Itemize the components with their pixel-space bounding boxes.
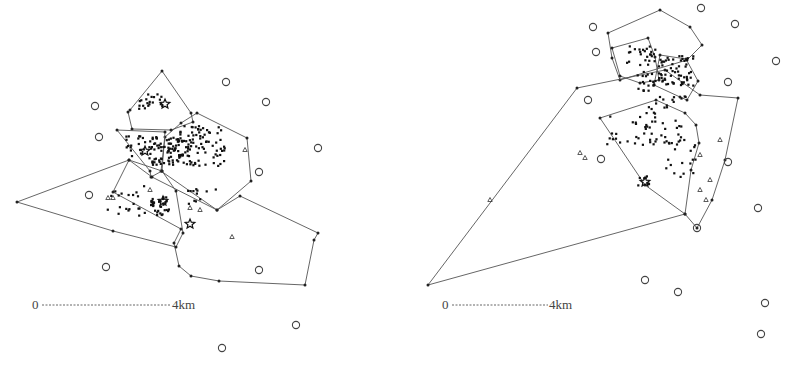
earthquake-point — [138, 215, 140, 217]
earthquake-point — [220, 148, 222, 150]
earthquake-point — [692, 58, 694, 60]
polygon-vertex — [175, 190, 178, 193]
station-circle-icon — [674, 288, 681, 295]
earthquake-point — [652, 84, 654, 86]
earthquake-point — [634, 48, 636, 50]
left-scale-start-label: 0 — [32, 297, 39, 312]
earthquake-point — [185, 140, 187, 142]
earthquake-point — [615, 133, 617, 135]
polygon-vertex — [190, 112, 193, 115]
earthquake-point — [671, 99, 673, 101]
earthquake-point — [668, 59, 670, 61]
earthquake-point — [145, 98, 147, 100]
earthquake-point — [677, 71, 679, 73]
earthquake-point — [632, 121, 634, 123]
earthquake-point — [151, 96, 153, 98]
earthquake-point — [154, 142, 156, 144]
polygon-vertex — [192, 121, 195, 124]
station-circle-icon — [641, 276, 648, 283]
earthquake-point — [128, 135, 130, 137]
earthquake-point — [192, 190, 194, 192]
earthquake-point — [138, 105, 140, 107]
polygon-vertex — [161, 170, 164, 173]
polygon-vertex — [239, 195, 242, 198]
earthquake-point — [619, 141, 621, 143]
earthquake-point — [654, 80, 656, 82]
earthquake-point — [155, 136, 157, 138]
earthquake-point — [639, 51, 641, 53]
earthquake-point — [694, 144, 696, 146]
right-scale-bar: 0 4km — [442, 297, 572, 312]
station-circle-icon — [91, 102, 98, 109]
right-earthquake-points — [488, 45, 722, 201]
earthquake-point — [649, 126, 651, 128]
earthquake-point — [144, 141, 146, 143]
earthquake-point — [649, 141, 651, 143]
earthquake-point — [148, 157, 150, 159]
earthquake-point — [663, 141, 665, 143]
earthquake-point — [678, 78, 680, 80]
earthquake-point — [223, 149, 225, 151]
earthquake-point — [609, 137, 611, 139]
earthquake-point — [187, 155, 189, 157]
earthquake-point — [179, 133, 181, 135]
polygon-vertex — [112, 230, 115, 233]
earthquake-point — [154, 210, 156, 212]
earthquake-point — [642, 81, 644, 83]
polygon-vertex — [701, 44, 704, 47]
earthquake-point — [184, 151, 186, 153]
earthquake-point — [644, 59, 646, 61]
triangle-event — [148, 188, 152, 192]
earthquake-point — [118, 213, 120, 215]
polygon-vertex — [129, 109, 132, 112]
station-circle-icon — [95, 133, 102, 140]
earthquake-point — [160, 146, 162, 148]
polygon-vertex — [607, 32, 610, 35]
earthquake-point — [658, 65, 660, 67]
earthquake-point — [666, 70, 668, 72]
earthquake-point — [609, 116, 611, 118]
earthquake-point — [119, 206, 121, 208]
earthquake-point — [187, 146, 189, 148]
earthquake-point — [197, 152, 199, 154]
earthquake-point — [197, 128, 199, 130]
earthquake-point — [125, 208, 127, 210]
earthquake-point — [666, 140, 668, 142]
earthquake-point — [639, 177, 641, 179]
earthquake-point — [215, 188, 217, 190]
earthquake-point — [190, 190, 192, 192]
seismicity-map-figure: 0 4km 0 4km — [0, 0, 792, 365]
polygon-vertex — [655, 99, 658, 102]
earthquake-point — [654, 60, 656, 62]
earthquake-point — [663, 107, 665, 109]
station-circle-icon — [761, 299, 768, 306]
earthquake-point — [643, 71, 645, 73]
right-scale-start-label: 0 — [442, 297, 449, 312]
earthquake-point — [627, 140, 629, 142]
earthquake-point — [152, 198, 154, 200]
earthquake-point — [212, 145, 214, 147]
polygon-vertex — [599, 117, 602, 120]
earthquake-point — [649, 139, 651, 141]
earthquake-point — [188, 203, 190, 205]
earthquake-point — [653, 143, 655, 145]
earthquake-point — [680, 136, 682, 138]
earthquake-point — [152, 101, 154, 103]
earthquake-point — [673, 101, 675, 103]
earthquake-point — [170, 152, 172, 154]
station-circle-icon — [772, 57, 779, 64]
earthquake-point — [650, 53, 652, 55]
station-circle-icon — [592, 48, 599, 55]
triangle-event — [243, 148, 247, 152]
station-circle-icon — [724, 158, 731, 165]
station-circle-icon — [262, 98, 269, 105]
earthquake-point — [192, 126, 194, 128]
station-circle-icon — [697, 4, 704, 11]
earthquake-point — [642, 144, 644, 146]
earthquake-point — [681, 162, 683, 164]
earthquake-point — [640, 53, 642, 55]
earthquake-point — [157, 210, 159, 212]
triangle-event — [578, 151, 582, 155]
earthquake-point — [670, 67, 672, 69]
earthquake-point — [687, 84, 689, 86]
